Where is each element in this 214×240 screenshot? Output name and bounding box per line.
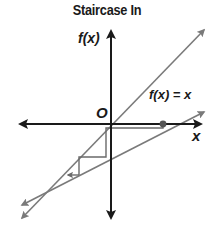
x-axis-label: x [192,127,200,144]
identity-line-label: f(x) = x [149,87,191,102]
origin-label: O [96,104,108,121]
starting-point [160,121,167,128]
staircase-path [79,124,163,175]
function-line [22,112,204,205]
y-axis-label: f(x) [78,30,100,46]
